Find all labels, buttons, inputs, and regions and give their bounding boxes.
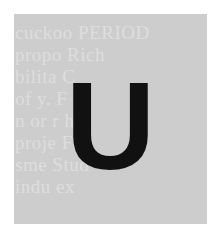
letter-glyph: U xyxy=(14,64,207,188)
letter-tile: cuckoo PERIOD propo Rich bilita C of y. … xyxy=(14,14,207,224)
background-text-line: cuckoo PERIOD xyxy=(15,22,207,44)
